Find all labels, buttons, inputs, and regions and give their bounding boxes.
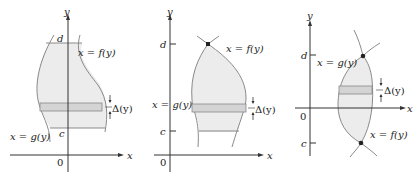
- x-axis-label: x: [127, 150, 133, 161]
- f-curve-label: x = f(y): [370, 129, 408, 140]
- d-label: d: [57, 33, 63, 44]
- panel-3-graphic: y x 0 d c x = g(y) x = f(y) Δ(y): [280, 0, 418, 182]
- strip: [192, 104, 246, 112]
- strip: [40, 103, 102, 111]
- figure-panel-1: y x 0 d c x = f(y) x = g(y) Δ(y): [0, 0, 140, 182]
- g-curve-label: x = g(y): [10, 131, 50, 142]
- delta-label: Δ(y): [384, 85, 405, 96]
- c-label: c: [301, 138, 307, 149]
- lower-intersection-point: [359, 141, 364, 146]
- origin-label: 0: [57, 157, 63, 168]
- figure-panel-3: y x 0 d c x = g(y) x = f(y) Δ(y): [280, 0, 418, 182]
- f-curve-label: x = f(y): [226, 43, 264, 54]
- x-axis-label: x: [407, 103, 413, 114]
- upper-intersection-point: [361, 54, 366, 59]
- y-axis-label: y: [306, 10, 313, 21]
- delta-label: Δ(y): [255, 104, 276, 115]
- y-axis-label: y: [63, 6, 70, 17]
- figure-panel-2: y x 0 d c x = f(y) x = g(y) Δ(y): [140, 0, 280, 182]
- d-label: d: [160, 39, 166, 50]
- y-axis-label: y: [166, 6, 173, 17]
- d-label: d: [301, 50, 307, 61]
- intersection-point: [206, 42, 210, 46]
- origin-label: 0: [160, 157, 166, 168]
- g-curve-label: x = g(y): [317, 57, 357, 68]
- x-axis-label: x: [267, 150, 273, 161]
- c-label: c: [59, 128, 65, 139]
- origin-label: 0: [300, 111, 306, 122]
- panel-1-graphic: y x 0 d c x = f(y) x = g(y) Δ(y): [0, 0, 140, 182]
- delta-label: Δ(y): [112, 103, 133, 114]
- g-curve-label: x = g(y): [152, 99, 192, 110]
- c-label: c: [160, 126, 166, 137]
- strip: [339, 86, 372, 94]
- panel-2-graphic: y x 0 d c x = f(y) x = g(y) Δ(y): [140, 0, 280, 182]
- f-curve-label: x = f(y): [78, 47, 116, 58]
